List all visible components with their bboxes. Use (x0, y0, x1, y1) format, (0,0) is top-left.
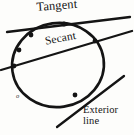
arc-point-upper-left-marker (29, 33, 34, 38)
secant-point-right-marker (93, 39, 98, 44)
exterior-line-label: Exterior line (83, 105, 118, 127)
secant-point-left-marker (12, 64, 17, 69)
center-point-label: o (16, 93, 19, 100)
circle-lines-diagram: Tangent Secant Exterior line o (0, 0, 134, 135)
tangent-point-marker (62, 22, 67, 27)
exterior-line-label-line2: line (83, 116, 118, 127)
arc-point-left-marker (17, 48, 22, 53)
exterior-line-label-line1: Exterior (83, 104, 118, 115)
arc-point-lower-right-marker (73, 93, 78, 98)
